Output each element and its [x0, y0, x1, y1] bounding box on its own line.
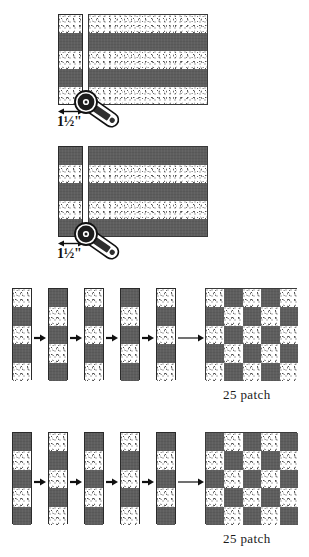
- block-cell-r1-c1: [206, 289, 224, 307]
- pieced-strip-1-cell-5: [13, 363, 31, 381]
- pieced-strip-1-cell-3: [13, 326, 31, 344]
- sewn-panel-a-band-1: [89, 15, 207, 33]
- pieced-strip-4: [120, 432, 140, 524]
- pieced-strip-1-cell-5: [13, 507, 31, 525]
- block-cell-r3-c3: [243, 470, 261, 488]
- block-cell-r5-c5: [280, 507, 298, 525]
- pieced-strip-2-cell-4: [49, 344, 67, 362]
- block-cell-r1-c3: [243, 433, 261, 451]
- block-cell-r3-c4: [261, 326, 279, 344]
- pieced-strip-4-cell-2: [121, 451, 139, 469]
- pieced-strip-3-cell-2: [85, 307, 103, 325]
- pieced-strip-5: [156, 288, 176, 380]
- pieced-strip-5-cell-4: [157, 488, 175, 506]
- block-cell-r1-c3: [243, 289, 261, 307]
- block-cell-r5-c5: [280, 363, 298, 381]
- block-cell-r2-c3: [243, 307, 261, 325]
- block-caption: 25 patch: [223, 387, 271, 403]
- pieced-strip-2-cell-3: [49, 326, 67, 344]
- sewn-panel-b-band-2: [89, 165, 207, 183]
- block-cell-r4-c5: [280, 488, 298, 506]
- pieced-strip-5-cell-3: [157, 326, 175, 344]
- block-cell-r2-c4: [261, 451, 279, 469]
- block-cell-r2-c2: [224, 451, 242, 469]
- quilt-instruction-diagram: 1½": [0, 0, 309, 557]
- pieced-strip-3-cell-1: [85, 289, 103, 307]
- arrow-to-block: [178, 473, 204, 491]
- block-cell-r1-c4: [261, 289, 279, 307]
- arrow-join-3: [106, 473, 118, 491]
- block-cell-r3-c1: [206, 470, 224, 488]
- pieced-strip-1-cell-4: [13, 344, 31, 362]
- pieced-strip-4-cell-4: [121, 488, 139, 506]
- pieced-strip-5-cell-4: [157, 344, 175, 362]
- block-cell-r4-c2: [224, 344, 242, 362]
- block-cell-r3-c3: [243, 326, 261, 344]
- block-cell-r5-c4: [261, 507, 279, 525]
- pieced-strip-5-cell-5: [157, 507, 175, 525]
- sewn-panel-a-band-4: [89, 69, 207, 87]
- arrow-join-2: [70, 473, 82, 491]
- pieced-strip-2-cell-1: [49, 433, 67, 451]
- block-cell-r2-c2: [224, 307, 242, 325]
- pieced-strip-1-cell-3: [13, 470, 31, 488]
- arrow-to-block: [178, 329, 204, 347]
- pieced-strip-4-cell-1: [121, 289, 139, 307]
- pieced-strip-5: [156, 432, 176, 524]
- pieced-strip-4-cell-4: [121, 344, 139, 362]
- block-cell-r5-c4: [261, 363, 279, 381]
- block-cell-r2-c5: [280, 307, 298, 325]
- block-cell-r2-c5: [280, 451, 298, 469]
- arrow-join-4: [142, 473, 154, 491]
- cut-strip-b-band-1: [59, 147, 82, 165]
- pieced-strip-4-cell-3: [121, 326, 139, 344]
- block-cell-r2-c3: [243, 451, 261, 469]
- sewn-panel-a-band-3: [89, 51, 207, 69]
- arrow-join-3: [106, 329, 118, 347]
- block-cell-r4-c1: [206, 344, 224, 362]
- block-cell-r4-c2: [224, 488, 242, 506]
- block-cell-r4-c4: [261, 344, 279, 362]
- rotary-cutter-icon: [72, 88, 128, 136]
- block-cell-r5-c3: [243, 363, 261, 381]
- pieced-strip-3-cell-1: [85, 433, 103, 451]
- rotary-cutter-a: [72, 88, 128, 140]
- pieced-strip-2-cell-2: [49, 451, 67, 469]
- pieced-strip-1-cell-4: [13, 488, 31, 506]
- block-cell-r3-c5: [280, 326, 298, 344]
- pieced-strip-4-cell-1: [121, 433, 139, 451]
- pieced-strip-1-cell-1: [13, 289, 31, 307]
- block-cell-r1-c5: [280, 289, 298, 307]
- arrow-join-1: [34, 329, 46, 347]
- pieced-strip-3-cell-5: [85, 507, 103, 525]
- pieced-strip-2-cell-2: [49, 307, 67, 325]
- block-cell-r4-c3: [243, 344, 261, 362]
- pieced-strip-1-cell-2: [13, 451, 31, 469]
- pieced-strip-1: [12, 288, 32, 380]
- block-cell-r4-c5: [280, 344, 298, 362]
- pieced-strip-3: [84, 432, 104, 524]
- block-cell-r2-c1: [206, 451, 224, 469]
- pieced-strip-5-cell-1: [157, 433, 175, 451]
- block-cell-r4-c3: [243, 488, 261, 506]
- pieced-strip-3-cell-5: [85, 363, 103, 381]
- pieced-strip-2-cell-4: [49, 488, 67, 506]
- block-cell-r3-c5: [280, 470, 298, 488]
- arrow-join-4: [142, 329, 154, 347]
- cut-strip-b-band-4: [59, 201, 82, 219]
- block-cell-r2-c4: [261, 307, 279, 325]
- pieced-strip-1: [12, 432, 32, 524]
- pieced-strip-3-cell-2: [85, 451, 103, 469]
- block-cell-r3-c4: [261, 470, 279, 488]
- pieced-strip-4: [120, 288, 140, 380]
- block-cell-r4-c1: [206, 488, 224, 506]
- block-cell-r1-c1: [206, 433, 224, 451]
- pieced-strip-2-cell-3: [49, 470, 67, 488]
- pieced-strip-4-cell-3: [121, 470, 139, 488]
- pieced-strip-3-cell-4: [85, 488, 103, 506]
- cut-strip-a-band-2: [59, 33, 82, 51]
- pieced-strip-5-cell-3: [157, 470, 175, 488]
- block-cell-r2-c1: [206, 307, 224, 325]
- cut-strip-a-band-1: [59, 15, 82, 33]
- block-cell-r3-c2: [224, 326, 242, 344]
